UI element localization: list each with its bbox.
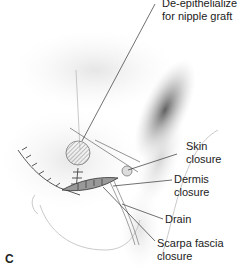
label-line: Drain xyxy=(165,213,191,226)
label-line: for nipple graft xyxy=(162,10,237,23)
label-line: De-epithelialize xyxy=(162,0,237,10)
label-line: closure xyxy=(186,153,221,166)
label-line: closure xyxy=(157,250,224,263)
label-scarpa-fascia-closure: Scarpa fascia closure xyxy=(157,237,224,263)
label-deepithelialize: De-epithelialize for nipple graft xyxy=(162,0,237,23)
label-drain: Drain xyxy=(165,213,191,226)
label-line: Dermis xyxy=(174,173,209,186)
panel-label: C xyxy=(5,252,14,266)
label-line: Scarpa fascia xyxy=(157,237,224,250)
label-dermis-closure: Dermis closure xyxy=(174,173,209,199)
label-skin-closure: Skin closure xyxy=(186,140,221,166)
label-line: closure xyxy=(174,186,209,199)
lateral-dog-ear xyxy=(122,166,132,176)
label-line: Skin xyxy=(186,140,221,153)
nipple-graft xyxy=(66,141,90,165)
